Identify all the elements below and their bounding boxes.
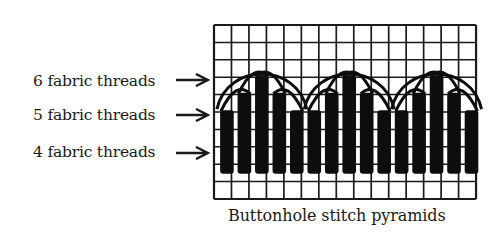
arrow-right-icon: [176, 73, 210, 87]
arrow-right-icon: [176, 108, 210, 122]
label-5-threads: 5 fabric threads: [33, 106, 155, 124]
buttonhole-stitch-pyramids: [217, 72, 482, 174]
label-4-threads: 4 fabric threads: [33, 143, 155, 161]
arrow-right-icon: [176, 146, 210, 160]
label-6-threads: 6 fabric threads: [33, 72, 155, 90]
figure-caption: Buttonhole stitch pyramids: [228, 206, 446, 225]
